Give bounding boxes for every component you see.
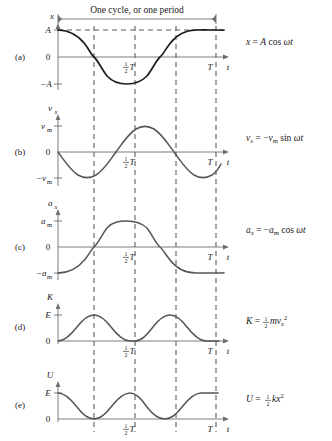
svg-text:m: m [47,273,52,280]
y-tick-e-zero: 0 [46,414,51,424]
panel-label-a: (a) [15,52,25,62]
x-tick-a-half-den: 2 [125,68,128,74]
y-tick-b-bottom: −v m [36,173,52,185]
shm-graph-figure: One cycle, or one period x A 0 −A (a) 1 … [0,0,332,441]
y-tick-e-top: E [44,388,51,398]
y-axis-label-a: x [49,11,54,21]
equation-d: K = 1 2 mvx2 [245,314,287,329]
x-tick-e-half: 1 2 T [123,423,135,436]
panel-b: v x v m 0 −v m (b) 1 2 T T t [15,103,230,186]
panel-label-b: (b) [15,147,26,157]
equation-b: vx = −vm sin ωt [246,133,303,144]
x-tick-b-period: T [207,157,213,167]
y-axis-label-d: K [46,292,54,302]
svg-text:v: v [41,121,45,131]
x-tick-d-half: 1 2 T [123,345,135,358]
y-tick-c-top: a m [41,216,52,228]
svg-text:x: x [54,108,58,115]
svg-text:kx2: kx2 [272,392,284,404]
svg-text:a: a [48,198,53,208]
y-tick-a-bottom: −A [40,79,52,89]
svg-text:1: 1 [125,423,128,429]
x-axis-label-e: t [227,424,230,434]
equation-e-fraction: 1 2 [265,394,271,407]
x-tick-c-period: T [207,252,213,262]
y-tick-a-zero: 0 [46,52,51,62]
svg-text:1: 1 [125,345,128,351]
x-axis-label-d: t [227,346,230,356]
panel-a: x A 0 −A (a) 1 2 T T t [15,11,230,90]
panel-c: a x a m 0 −a m (c) 1 2 T T t [15,198,230,280]
y-axis-label-e: U [47,370,54,380]
x-axis-label-c: t [227,252,230,262]
svg-text:m: m [47,178,52,185]
equation-d-fraction: 1 2 [263,316,269,329]
equation-a: x = A cos ωt [245,37,293,47]
svg-text:2: 2 [125,430,128,436]
equation-e: U = 1 2 kx2 [246,392,284,407]
svg-text:1: 1 [267,394,270,400]
svg-text:1: 1 [265,316,268,322]
y-tick-c-bottom: −a m [36,268,52,280]
svg-text:2: 2 [267,401,270,407]
y-axis-label-c: a x [48,198,58,210]
y-tick-b-zero: 0 [46,147,51,157]
x-tick-c-half: 1 2 T [123,251,135,264]
x-tick-a-half-num: 1 [125,61,128,67]
x-tick-b-half: 1 2 T [123,156,135,169]
x-tick-a-period: T [207,62,213,72]
x-tick-a-half: 1 2 T [123,61,135,74]
y-tick-d-top: E [44,310,51,320]
svg-text:1: 1 [125,156,128,162]
y-tick-b-top: v m [41,121,52,133]
curve-kinetic-energy [58,315,219,341]
panel-label-d: (d) [15,322,26,332]
x-axis-label-b: t [227,157,230,167]
panel-label-e: (e) [15,400,25,410]
svg-text:1: 1 [125,251,128,257]
svg-text:mvx2: mvx2 [270,314,287,327]
svg-text:x: x [54,203,58,210]
one-cycle-span: One cycle, or one period [58,5,216,24]
svg-text:2: 2 [125,163,128,169]
svg-text:−a: −a [36,268,47,278]
svg-text:x = A cos ωt: x = A cos ωt [245,37,293,47]
y-tick-c-zero: 0 [46,242,51,252]
panel-label-c: (c) [15,242,25,252]
svg-text:v: v [48,103,52,113]
svg-text:a: a [41,216,46,226]
svg-text:m: m [47,221,52,228]
panel-e: U E 0 (e) 1 2 T T t [15,370,230,436]
svg-text:ax = −am cos ωt: ax = −am cos ωt [246,225,306,236]
panel-d: K E 0 (d) 1 2 T T t [15,292,230,358]
svg-text:2: 2 [125,258,128,264]
svg-text:m: m [47,126,52,133]
x-tick-e-period: T [207,424,213,434]
x-axis-label-a: t [227,62,230,72]
equation-c: ax = −am cos ωt [246,225,306,236]
svg-text:U =: U = [246,394,261,404]
svg-text:K =: K = [245,316,260,326]
x-tick-d-period: T [207,346,213,356]
svg-text:2: 2 [125,352,128,358]
svg-text:vx = −vm sin ωt: vx = −vm sin ωt [246,133,303,144]
svg-text:2: 2 [265,323,268,329]
period-guide-lines [94,26,216,432]
curve-potential-energy [58,393,218,419]
y-axis-label-b: v x [48,103,58,115]
one-cycle-label: One cycle, or one period [90,5,184,15]
svg-text:−v: −v [36,173,46,183]
y-tick-d-zero: 0 [46,336,51,346]
y-tick-a-top: A [44,25,51,35]
